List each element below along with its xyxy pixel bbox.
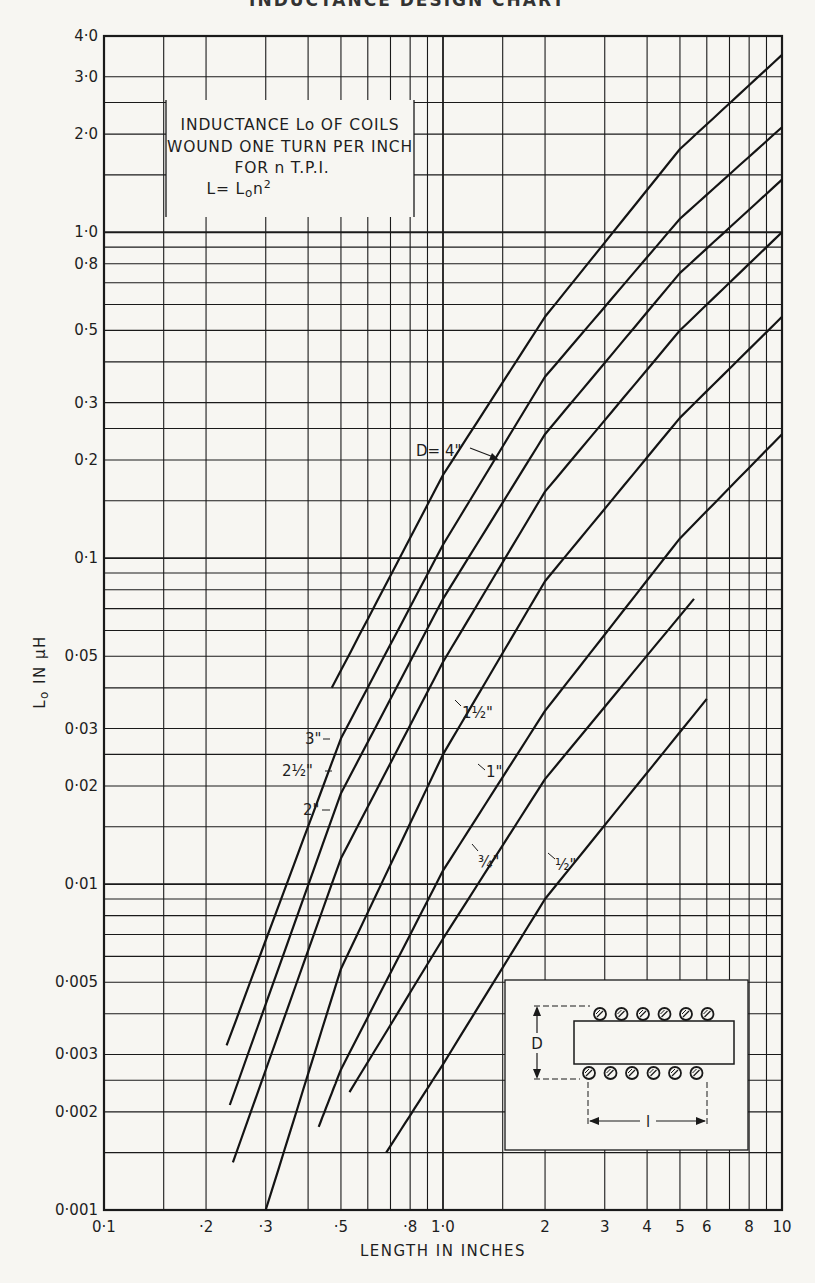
x-tick-label: 10	[772, 1218, 791, 1236]
y-tick-label: 0·8	[74, 255, 98, 273]
y-tick-label: 1·0	[74, 223, 98, 241]
y-tick-label: 0·003	[55, 1045, 98, 1063]
x-tick-label: 1·0	[431, 1218, 455, 1236]
title-line-2: WOUND ONE TURN PER INCH	[167, 138, 413, 156]
y-tick-label: 0·3	[74, 394, 98, 412]
y-tick-label: 2·0	[74, 125, 98, 143]
x-axis-tick-labels: 0·1·2·3·5·81·023456810	[92, 1218, 791, 1236]
curve-label-1-5in: 1½"	[462, 704, 493, 722]
y-axis-title: Lo IN µH	[31, 635, 51, 709]
x-tick-label: ·8	[403, 1218, 417, 1236]
x-axis-title: LENGTH IN INCHES	[360, 1242, 526, 1260]
curve-label-half-in: ½"	[555, 856, 576, 874]
x-tick-label: 4	[642, 1218, 652, 1236]
formula: L= Lon2	[207, 178, 272, 200]
curve-labels: D= 4" 3" 2½" 2" 1½" 1" ¾" ½"	[282, 442, 576, 874]
x-tick-label: 3	[600, 1218, 610, 1236]
y-tick-label: 0·2	[74, 451, 98, 469]
title-line-1: INDUCTANCE Lo OF COILS	[181, 116, 400, 134]
x-tick-label: ·2	[199, 1218, 213, 1236]
x-tick-label: ·5	[334, 1218, 348, 1236]
y-tick-label: 0·05	[65, 647, 98, 665]
curve-label-3in: 3"	[305, 730, 321, 748]
y-tick-label: 0·005	[55, 973, 98, 991]
coil-former	[574, 1021, 734, 1064]
dimension-l-label: l	[646, 1113, 650, 1131]
x-tick-label: ·3	[259, 1218, 273, 1236]
y-axis-tick-labels: 4·03·02·01·00·80·50·30·20·10·050·030·020…	[55, 27, 98, 1219]
curve-label-4in: D= 4"	[416, 442, 461, 460]
curve-label-1in: 1"	[486, 763, 502, 781]
curve-series-1	[227, 127, 782, 1045]
title-box: INDUCTANCE Lo OF COILS WOUND ONE TURN PE…	[166, 100, 414, 217]
x-tick-label: 2	[540, 1218, 550, 1236]
x-tick-label: 5	[675, 1218, 685, 1236]
y-tick-label: 0·03	[65, 720, 98, 738]
curve-label-2in: 2"	[303, 801, 319, 819]
y-tick-label: 0·5	[74, 321, 98, 339]
x-tick-label: 0·1	[92, 1218, 116, 1236]
dimension-d-label: D	[531, 1035, 543, 1053]
y-tick-label: 0·01	[65, 875, 98, 893]
y-tick-label: 3·0	[74, 68, 98, 86]
title-line-3: FOR n T.P.I.	[234, 159, 329, 177]
curve-label-3-4in: ¾"	[478, 853, 499, 871]
y-tick-label: 0·02	[65, 777, 98, 795]
x-tick-label: 6	[702, 1218, 712, 1236]
y-tick-label: 0·001	[55, 1201, 98, 1219]
chart: INDUCTANCE Lo OF COILS WOUND ONE TURN PE…	[0, 0, 815, 1283]
x-tick-label: 8	[744, 1218, 754, 1236]
y-tick-label: 0·1	[74, 549, 98, 567]
curve-series-2	[230, 180, 782, 1105]
curve-label-2-5in: 2½"	[282, 762, 313, 780]
y-tick-label: 0·002	[55, 1103, 98, 1121]
y-tick-label: 4·0	[74, 27, 98, 45]
inset-coil-diagram: D l	[505, 980, 748, 1150]
